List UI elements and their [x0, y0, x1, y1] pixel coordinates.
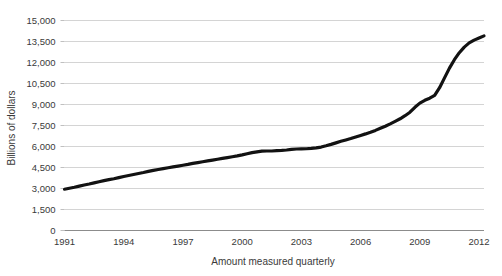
- y-tick-label: 15,000: [26, 15, 55, 26]
- ytick-labels-group: 15,00013,50012,00010,5009,0007,5006,0004…: [26, 15, 55, 236]
- x-tick-label: 2012: [468, 236, 489, 247]
- y-tick-label: 6,000: [32, 141, 56, 152]
- x-tick-label: 2006: [350, 236, 371, 247]
- gridlines-group: [65, 21, 485, 210]
- y-tick-label: 0: [50, 225, 55, 236]
- y-tick-label: 13,500: [26, 36, 55, 47]
- x-tick-label: 1997: [172, 236, 193, 247]
- x-tick-label: 1991: [54, 236, 75, 247]
- y-tick-label: 1,500: [32, 204, 56, 215]
- chart-container: 15,00013,50012,00010,5009,0007,5006,0004…: [0, 0, 502, 276]
- x-axis-title: Amount measured quarterly: [211, 256, 334, 267]
- y-tick-label: 7,500: [32, 120, 56, 131]
- x-tick-label: 2009: [409, 236, 430, 247]
- x-tick-label: 2000: [232, 236, 253, 247]
- y-axis-title: Billions of dollars: [6, 90, 17, 165]
- ytick-marks-group: [61, 21, 65, 231]
- x-tick-label: 1994: [113, 236, 134, 247]
- y-tick-label: 4,500: [32, 162, 56, 173]
- data-series-line: [65, 36, 485, 189]
- y-tick-label: 12,000: [26, 57, 55, 68]
- line-chart: 15,00013,50012,00010,5009,0007,5006,0004…: [0, 0, 502, 276]
- y-tick-label: 3,000: [32, 183, 56, 194]
- y-tick-label: 10,500: [26, 78, 55, 89]
- xtick-labels-group: 19911994199720002003200620092012: [54, 236, 490, 247]
- y-tick-label: 9,000: [32, 99, 56, 110]
- x-tick-label: 2003: [291, 236, 312, 247]
